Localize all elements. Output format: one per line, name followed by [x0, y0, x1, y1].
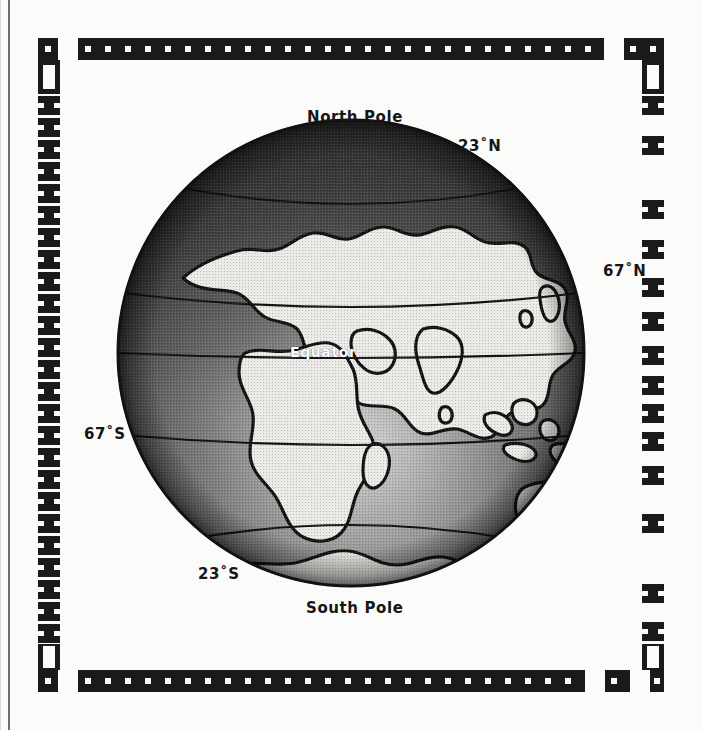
border-right-band — [642, 60, 664, 670]
label-antarctic-circle: 67˚S — [84, 427, 126, 442]
page-edge-outer — [0, 0, 1, 730]
border-bottom-band — [38, 670, 664, 692]
border-left-band — [38, 60, 60, 670]
label-south-pole: South Pole — [306, 601, 403, 616]
label-north-pole: North Pole — [307, 110, 403, 125]
label-arctic-circle: 67˚N — [603, 264, 646, 279]
page-canvas: North Pole 23˚N 67˚N Equator 67˚S 23˚S S… — [0, 0, 702, 730]
label-tropic-of-capricorn: 23˚S — [198, 567, 240, 582]
label-tropic-of-cancer: 23˚N — [458, 139, 501, 154]
label-equator: Equator — [290, 345, 356, 359]
border-top-band — [38, 38, 664, 60]
page-edge-line — [8, 0, 10, 730]
